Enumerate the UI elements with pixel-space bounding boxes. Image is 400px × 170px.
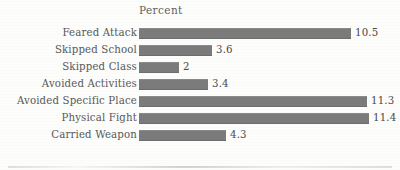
category-label: Avoided Specific Place [17, 95, 137, 106]
bar-value-label: 10.5 [355, 27, 378, 38]
bar-fill [139, 130, 226, 141]
bar-fill [139, 45, 212, 56]
bar-row: Skipped Class2 [0, 60, 400, 77]
category-label: Skipped School [55, 44, 137, 55]
bar-fill [139, 28, 351, 39]
bar-track [139, 130, 226, 141]
bar-row: Avoided Activities3.4 [0, 77, 400, 94]
chart-title: Percent [139, 4, 183, 16]
bar-chart: Percent Feared Attack10.5Skipped School3… [0, 0, 400, 170]
category-label: Physical Fight [61, 112, 137, 123]
bar-fill [139, 96, 367, 107]
bar-value-label: 11.4 [373, 112, 396, 123]
bar-fill [139, 62, 179, 73]
category-label: Carried Weapon [51, 129, 137, 140]
bar-value-label: 2 [183, 61, 190, 72]
category-label: Avoided Activities [42, 78, 137, 89]
bar-track [139, 79, 208, 90]
bar-value-label: 4.3 [230, 129, 247, 140]
bar-track [139, 96, 367, 107]
bar-row: Physical Fight11.4 [0, 111, 400, 128]
bar-fill [139, 79, 208, 90]
bar-track [139, 62, 179, 73]
category-label: Skipped Class [62, 61, 137, 72]
bar-track [139, 28, 351, 39]
bar-track [139, 113, 369, 124]
plot-area: Feared Attack10.5Skipped School3.6Skippe… [0, 26, 400, 146]
bar-value-label: 11.3 [371, 95, 394, 106]
bar-track [139, 45, 212, 56]
bar-value-label: 3.4 [212, 78, 229, 89]
bar-fill [139, 113, 369, 124]
bar-row: Avoided Specific Place11.3 [0, 94, 400, 111]
bar-value-label: 3.6 [216, 44, 233, 55]
bar-row: Skipped School3.6 [0, 43, 400, 60]
category-label: Feared Attack [62, 27, 137, 38]
bar-row: Carried Weapon4.3 [0, 128, 400, 145]
scan-artifact-line [8, 166, 392, 168]
bar-row: Feared Attack10.5 [0, 26, 400, 43]
